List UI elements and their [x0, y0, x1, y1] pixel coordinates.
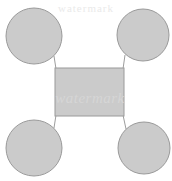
connector-center-to-bottom-left: [54, 115, 56, 128]
watermark-group: watermark: [58, 2, 114, 14]
connector-center-to-top-left: [54, 56, 56, 69]
node-circle-top-right[interactable]: [117, 9, 169, 61]
node-circle-bottom-left[interactable]: [6, 120, 62, 176]
diagram-canvas: watermark watermark: [0, 0, 172, 181]
connector-center-to-bottom-right: [123, 115, 126, 129]
node-circle-bottom-right[interactable]: [118, 122, 170, 174]
center-node-group: watermark: [55, 68, 125, 116]
node-circle-top-left[interactable]: [6, 8, 62, 64]
node-link-diagram: watermark watermark: [0, 0, 172, 181]
watermark-center-text: watermark: [55, 90, 125, 106]
connector-center-to-top-right: [123, 55, 125, 69]
watermark-top-text: watermark: [58, 2, 114, 14]
